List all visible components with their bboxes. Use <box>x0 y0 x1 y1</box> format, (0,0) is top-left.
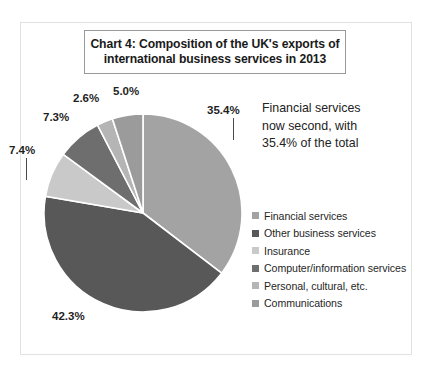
legend-item-label: Other business services <box>264 227 376 239</box>
leader-line-financial-services <box>233 118 234 140</box>
legend-item-label: Communications <box>264 297 342 309</box>
legend-swatch-icon <box>252 247 259 254</box>
pie-label-financial-services: 35.4% <box>207 104 240 116</box>
chart-annotation: Financial services now second, with 35.4… <box>262 100 412 153</box>
legend-item[interactable]: Communications <box>252 295 417 313</box>
chart-title-line-1: Chart 4: Composition of the UK's exports… <box>90 37 339 52</box>
legend-item[interactable]: Personal, cultural, etc. <box>252 277 417 295</box>
chart-legend: Financial servicesOther business service… <box>252 207 417 312</box>
chart-title-box: Chart 4: Composition of the UK's exports… <box>84 30 346 74</box>
legend-swatch-icon <box>252 230 259 237</box>
pie-label-insurance: 7.4% <box>9 144 35 156</box>
pie-label-other-business-services: 42.3% <box>52 310 85 322</box>
legend-item-label: Personal, cultural, etc. <box>264 280 368 292</box>
legend-swatch-icon <box>252 265 259 272</box>
legend-item-label: Insurance <box>264 245 310 257</box>
leader-line-insurance <box>26 158 27 180</box>
pie-label-personal-cultural: 2.6% <box>73 92 99 104</box>
legend-item-label: Computer/information services <box>264 262 406 274</box>
pie-chart-svg <box>43 113 243 313</box>
annotation-line-1: Financial services <box>262 100 412 118</box>
legend-item-label: Financial services <box>264 210 347 222</box>
legend-item[interactable]: Other business services <box>252 225 417 243</box>
legend-item[interactable]: Computer/information services <box>252 260 417 278</box>
pie-slice-group <box>44 114 242 312</box>
legend-item[interactable]: Financial services <box>252 207 417 225</box>
chart-title-line-2: international business services in 2013 <box>104 52 326 67</box>
pie-chart <box>43 113 243 313</box>
annotation-line-3: 35.4% of the total <box>262 135 412 153</box>
legend-swatch-icon <box>252 282 259 289</box>
annotation-line-2: now second, with <box>262 118 412 136</box>
legend-swatch-icon <box>252 300 259 307</box>
legend-swatch-icon <box>252 212 259 219</box>
pie-label-communications: 5.0% <box>113 85 139 97</box>
pie-label-computer-information-services: 7.3% <box>43 111 69 123</box>
legend-item[interactable]: Insurance <box>252 242 417 260</box>
